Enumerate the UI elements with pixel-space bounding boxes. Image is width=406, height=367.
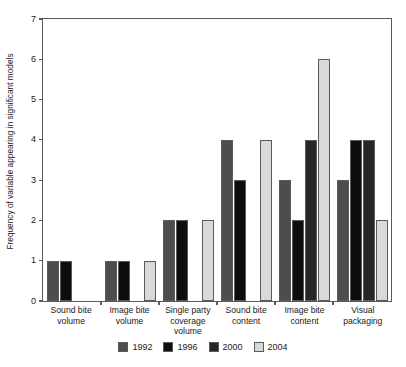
bar-1996-sound-bite-volume[interactable] [60, 261, 72, 301]
bar-group [43, 19, 101, 301]
x-axis-label-line: volume [43, 316, 99, 327]
bar-group [159, 19, 217, 301]
legend-item-2004[interactable]: 2004 [254, 342, 288, 352]
bar-1992-image-bite-volume[interactable] [105, 261, 117, 301]
y-axis-tick-label: 1 [31, 256, 39, 265]
y-axis-title-text: Frequency of variable appearing in signi… [6, 53, 15, 249]
legend-swatch-1996 [163, 342, 173, 352]
chart-legend: 1992199620002004 [0, 342, 406, 352]
x-axis-label-line: Image bite [276, 305, 332, 316]
x-axis-label-line: Visual [335, 305, 391, 316]
x-axis-label-line: Sound bite [43, 305, 99, 316]
bar-2004-sound-bite-content[interactable] [260, 140, 272, 301]
bar-2004-visual-packaging[interactable] [376, 220, 388, 301]
x-axis-labels: Sound bitevolumeImage bitevolumeSingle p… [42, 305, 392, 337]
x-axis-label-line: packaging [335, 316, 391, 327]
bar-groups [43, 19, 391, 301]
bar-1996-sound-bite-content[interactable] [234, 180, 246, 301]
plot-area: 76543210 [42, 18, 392, 302]
legend-label-2000: 2000 [223, 343, 243, 352]
x-axis-label-visual-packaging: Visualpackaging [334, 305, 392, 337]
legend-item-1996[interactable]: 1996 [163, 342, 197, 352]
legend-swatch-2000 [209, 342, 219, 352]
bar-2000-visual-packaging[interactable] [363, 140, 375, 301]
bar-1992-visual-packaging[interactable] [337, 180, 349, 301]
x-axis-label-line: Sound bite [218, 305, 274, 316]
bar-1996-image-bite-content[interactable] [292, 220, 304, 301]
bar-2004-image-bite-volume[interactable] [144, 261, 156, 301]
bar-1992-sound-bite-content[interactable] [221, 140, 233, 301]
y-axis-tick-label: 0 [31, 297, 39, 306]
bar-2000-image-bite-content[interactable] [305, 140, 317, 301]
bar-group [333, 19, 391, 301]
bar-1992-single-party-coverage-volume[interactable] [163, 220, 175, 301]
x-axis-label-single-party-coverage-volume: Single partycoveragevolume [159, 305, 217, 337]
bar-1996-image-bite-volume[interactable] [118, 261, 130, 301]
y-axis-tick-label: 6 [31, 55, 39, 64]
bar-1992-sound-bite-volume[interactable] [47, 261, 59, 301]
bar-group [101, 19, 159, 301]
x-axis-label-image-bite-volume: Image bitevolume [100, 305, 158, 337]
bar-chart-figure: Frequency of variable appearing in signi… [0, 0, 406, 367]
x-axis-label-line: Single party [160, 305, 216, 316]
y-axis-tick-label: 2 [31, 216, 39, 225]
bar-1996-visual-packaging[interactable] [350, 140, 362, 301]
x-axis-label-line: content [276, 316, 332, 327]
y-axis-tick-label: 5 [31, 95, 39, 104]
x-axis-label-image-bite-content: Image bitecontent [275, 305, 333, 337]
legend-item-1992[interactable]: 1992 [118, 342, 152, 352]
y-axis-tick-label: 4 [31, 135, 39, 144]
x-axis-label-line: Image bite [101, 305, 157, 316]
bar-2004-image-bite-content[interactable] [318, 59, 330, 301]
legend-label-2004: 2004 [268, 343, 288, 352]
x-axis-label-line: content [218, 316, 274, 327]
x-axis-label-line: coverage [160, 316, 216, 327]
x-axis-label-line: volume [160, 326, 216, 337]
legend-swatch-1992 [118, 342, 128, 352]
bar-2004-single-party-coverage-volume[interactable] [202, 220, 214, 301]
legend-swatch-2004 [254, 342, 264, 352]
y-axis-title: Frequency of variable appearing in signi… [0, 0, 20, 302]
x-axis-label-line: volume [101, 316, 157, 327]
bar-1992-image-bite-content[interactable] [279, 180, 291, 301]
x-axis-label-sound-bite-content: Sound bitecontent [217, 305, 275, 337]
bar-group [275, 19, 333, 301]
legend-label-1992: 1992 [132, 343, 152, 352]
legend-label-1996: 1996 [177, 343, 197, 352]
bar-1996-single-party-coverage-volume[interactable] [176, 220, 188, 301]
legend-item-2000[interactable]: 2000 [209, 342, 243, 352]
y-axis-tick-label: 3 [31, 176, 39, 185]
x-axis-label-sound-bite-volume: Sound bitevolume [42, 305, 100, 337]
y-axis-tick-label: 7 [31, 15, 39, 24]
bar-group [217, 19, 275, 301]
